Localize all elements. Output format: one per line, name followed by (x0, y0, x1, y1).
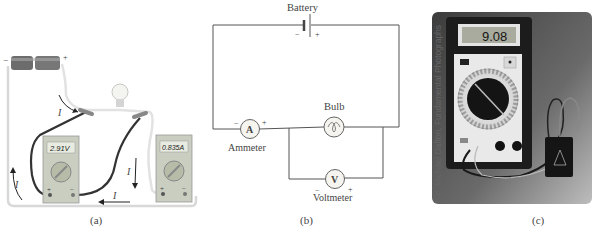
battery-neg-label: − (3, 55, 8, 65)
multimeter-photo: 9.08 (420, 0, 598, 232)
voltmeter-label: Voltmeter (313, 192, 353, 203)
panel-a-illustrated-circuit: − + 2.91V + − 0.835A + − (0, 0, 200, 232)
ammeter-plus: + (160, 185, 164, 193)
ammeter-minus: − (182, 185, 186, 193)
voltmeter-reading: 2.91V (49, 144, 71, 153)
battery-neg-sign: − (295, 30, 300, 39)
ammeter-label: Ammeter (228, 142, 266, 153)
bulb-label: Bulb (324, 101, 344, 112)
battery-9v (545, 137, 573, 177)
circuit-schematic: Battery − + A − + Ammeter Bulb V − + Vol… (200, 0, 420, 232)
current-arrow-2 (135, 158, 136, 186)
panel-b-schematic: Battery − + A − + Ammeter Bulb V − + Vol… (200, 0, 420, 232)
ammeter-pos-sign: + (262, 118, 267, 127)
power-switch (460, 59, 469, 65)
battery-pos-sign: + (315, 30, 320, 39)
bulb-symbol (324, 117, 344, 137)
voltmeter-symbol: V (331, 174, 339, 185)
voltmeter-lead-minus (75, 118, 140, 195)
bulb-icon (112, 84, 128, 100)
current-label-2: I (126, 166, 131, 177)
voltmeter-minus: − (70, 186, 74, 194)
ammeter-reading: 0.835A (162, 144, 185, 151)
battery-pos-label: + (63, 53, 68, 62)
clip-right (134, 113, 146, 117)
ammeter-neg-sign: − (234, 119, 239, 128)
voltmeter-device: 2.91V + − (43, 136, 79, 203)
caption-c: (c) (532, 214, 544, 226)
voltmeter-plus: + (47, 186, 51, 194)
current-label-4: I (14, 179, 19, 190)
ammeter-device: 0.835A + − (156, 135, 192, 202)
photo-credit: c. Michael Dalton, Fundamental Photograp… (433, 35, 443, 195)
input-jack-1 (495, 141, 505, 151)
ammeter-symbol: A (246, 124, 254, 135)
circuit-illustration: − + 2.91V + − 0.835A + − (0, 0, 200, 232)
bulb-base (116, 99, 124, 107)
battery-label: Battery (287, 2, 319, 13)
panel-c-photograph: 9.08 c. Michael Dalton, Fundamental Phot… (420, 0, 598, 232)
current-label-3: I (112, 190, 117, 201)
current-label-1: I (57, 107, 62, 118)
input-jack-2 (512, 141, 522, 151)
caption-a: (a) (90, 214, 102, 226)
display-reading: 9.08 (482, 29, 507, 44)
caption-b: (b) (300, 214, 313, 226)
